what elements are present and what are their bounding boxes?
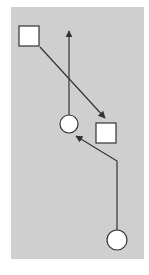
circle-bottom-node [107, 230, 127, 250]
diagram-canvas [0, 0, 149, 275]
square-right-node [96, 123, 116, 143]
circle-middle-node [60, 115, 78, 133]
square-top-left-node [19, 26, 39, 46]
